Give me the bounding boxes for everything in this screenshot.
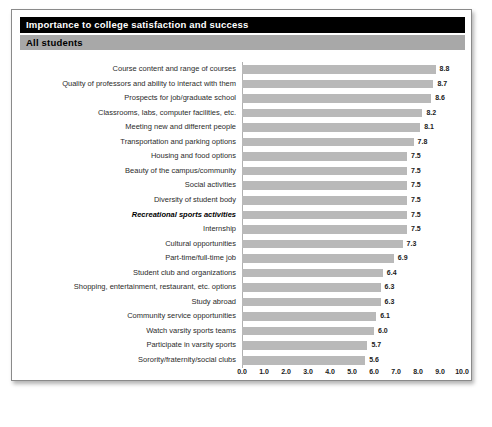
x-axis-tick-label: 3.0 bbox=[303, 368, 313, 375]
bar bbox=[242, 327, 374, 336]
bar bbox=[242, 341, 367, 350]
bar-value-label: 6.1 bbox=[380, 309, 390, 324]
x-axis-tick-label: 7.0 bbox=[391, 368, 401, 375]
bar-category-label: Student club and organizations bbox=[133, 266, 236, 281]
bar bbox=[242, 312, 376, 321]
bar-value-label: 7.5 bbox=[411, 178, 421, 193]
bar-category-label: Internship bbox=[203, 222, 236, 237]
x-axis-tick-label: 5.0 bbox=[347, 368, 357, 375]
bar-value-label: 8.1 bbox=[424, 120, 434, 135]
bar-value-label: 7.8 bbox=[418, 135, 428, 150]
bar bbox=[242, 211, 407, 220]
x-axis-tick-label: 10.0 bbox=[455, 368, 469, 375]
bar-row: Student club and organizations6.4 bbox=[20, 266, 465, 281]
bar-category-label: Course content and range of courses bbox=[113, 62, 236, 77]
bar-value-label: 8.2 bbox=[426, 106, 436, 121]
bar-value-label: 5.6 bbox=[369, 353, 379, 368]
x-axis-tick-label: 8.0 bbox=[413, 368, 423, 375]
bar bbox=[242, 123, 420, 132]
bar-row: Study abroad6.3 bbox=[20, 295, 465, 310]
x-axis-tick-label: 2.0 bbox=[281, 368, 291, 375]
bar-value-label: 6.3 bbox=[385, 295, 395, 310]
bar bbox=[242, 152, 407, 161]
bar-row: Sorority/fraternity/social clubs5.6 bbox=[20, 353, 465, 368]
page-title: Importance to college satisfaction and s… bbox=[20, 17, 465, 33]
bar-row: Meeting new and different people8.1 bbox=[20, 120, 465, 135]
x-axis: 0.01.02.03.04.05.06.07.08.09.010.0 bbox=[242, 368, 462, 380]
x-axis-tick-label: 9.0 bbox=[435, 368, 445, 375]
bar bbox=[242, 356, 365, 365]
bar-value-label: 7.5 bbox=[411, 208, 421, 223]
bar-value-label: 8.7 bbox=[437, 77, 447, 92]
bar-category-label: Recreational sports activities bbox=[132, 208, 236, 223]
bar bbox=[242, 181, 407, 190]
bar-value-label: 6.9 bbox=[398, 251, 408, 266]
bar-category-label: Cultural opportunities bbox=[165, 237, 236, 252]
bar-category-label: Shopping, entertainment, restaurant, etc… bbox=[74, 280, 236, 295]
bar-value-label: 7.5 bbox=[411, 222, 421, 237]
bar-category-label: Prospects for job/graduate school bbox=[124, 91, 236, 106]
bar-value-label: 8.6 bbox=[435, 91, 445, 106]
x-axis-tick-label: 6.0 bbox=[369, 368, 379, 375]
bar-value-label: 7.3 bbox=[407, 237, 417, 252]
bar-value-label: 8.8 bbox=[440, 62, 450, 77]
bar-row: Transportation and parking options7.8 bbox=[20, 135, 465, 150]
bar-value-label: 6.3 bbox=[385, 280, 395, 295]
bar bbox=[242, 80, 433, 89]
bar-row: Internship7.5 bbox=[20, 222, 465, 237]
bar-row: Housing and food options7.5 bbox=[20, 149, 465, 164]
bar-category-label: Sorority/fraternity/social clubs bbox=[138, 353, 236, 368]
bar bbox=[242, 109, 422, 118]
bar-category-label: Social activities bbox=[185, 178, 236, 193]
bar-value-label: 5.7 bbox=[371, 338, 381, 353]
x-axis-tick-label: 1.0 bbox=[259, 368, 269, 375]
bar-row: Classrooms, labs, computer facilities, e… bbox=[20, 106, 465, 121]
bar-row: Community service opportunities6.1 bbox=[20, 309, 465, 324]
x-axis-tick-label: 4.0 bbox=[325, 368, 335, 375]
bar-row: Quality of professors and ability to int… bbox=[20, 77, 465, 92]
bar-row: Course content and range of courses8.8 bbox=[20, 62, 465, 77]
bar-value-label: 7.5 bbox=[411, 149, 421, 164]
bar-row: Participate in varsity sports5.7 bbox=[20, 338, 465, 353]
bar-row: Watch varsity sports teams6.0 bbox=[20, 324, 465, 339]
bar-category-label: Study abroad bbox=[191, 295, 236, 310]
bar-category-label: Housing and food options bbox=[151, 149, 236, 164]
bar bbox=[242, 167, 407, 176]
bar bbox=[242, 225, 407, 234]
bar-row: Recreational sports activities7.5 bbox=[20, 208, 465, 223]
bar-category-label: Diversity of student body bbox=[154, 193, 236, 208]
bar-value-label: 7.5 bbox=[411, 193, 421, 208]
bar bbox=[242, 298, 381, 307]
page-subtitle: All students bbox=[20, 35, 465, 50]
bar bbox=[242, 65, 436, 74]
bar-row: Cultural opportunities7.3 bbox=[20, 237, 465, 252]
bar-value-label: 6.4 bbox=[387, 266, 397, 281]
bar-category-label: Transportation and parking options bbox=[120, 135, 236, 150]
x-axis-tick-label: 0.0 bbox=[237, 368, 247, 375]
bar-category-label: Meeting new and different people bbox=[125, 120, 236, 135]
bar-row: Social activities7.5 bbox=[20, 178, 465, 193]
bar-row: Shopping, entertainment, restaurant, etc… bbox=[20, 280, 465, 295]
bar bbox=[242, 269, 383, 278]
bar-category-label: Beauty of the campus/community bbox=[125, 164, 236, 179]
bar bbox=[242, 254, 394, 263]
bar-value-label: 6.0 bbox=[378, 324, 388, 339]
bar-category-label: Community service opportunities bbox=[127, 309, 236, 324]
bar-row: Prospects for job/graduate school8.6 bbox=[20, 91, 465, 106]
bar-category-label: Classrooms, labs, computer facilities, e… bbox=[98, 106, 236, 121]
bar-chart: Course content and range of courses8.8Qu… bbox=[20, 58, 465, 373]
bar-row: Diversity of student body7.5 bbox=[20, 193, 465, 208]
bar bbox=[242, 138, 414, 147]
bar bbox=[242, 240, 403, 249]
bar bbox=[242, 94, 431, 103]
report-page: Importance to college satisfaction and s… bbox=[11, 9, 472, 381]
bar-row: Beauty of the campus/community7.5 bbox=[20, 164, 465, 179]
bar-value-label: 7.5 bbox=[411, 164, 421, 179]
bar-category-label: Watch varsity sports teams bbox=[146, 324, 236, 339]
bar-row: Part-time/full-time job6.9 bbox=[20, 251, 465, 266]
bar bbox=[242, 283, 381, 292]
bar-category-label: Part-time/full-time job bbox=[165, 251, 236, 266]
bar bbox=[242, 196, 407, 205]
bar-category-label: Participate in varsity sports bbox=[146, 338, 236, 353]
bar-category-label: Quality of professors and ability to int… bbox=[62, 77, 236, 92]
